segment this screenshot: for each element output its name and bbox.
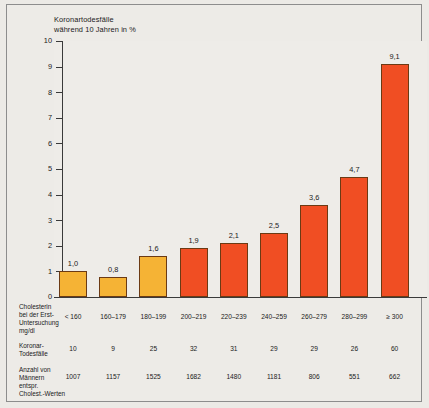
bar xyxy=(340,177,368,297)
chart-title: Koronartodesfälle während 10 Jahren in % xyxy=(54,15,136,34)
bar-value-label: 4,7 xyxy=(338,166,370,173)
bar xyxy=(260,233,288,297)
y-tick xyxy=(56,297,62,298)
table-cell: 260–279 xyxy=(294,314,334,321)
y-tick-label: 4 xyxy=(30,191,52,198)
y-tick xyxy=(56,118,62,119)
bar xyxy=(139,256,167,297)
table-cell: 1480 xyxy=(214,374,254,381)
bar-value-label: 1,9 xyxy=(178,237,210,244)
y-tick xyxy=(56,143,62,144)
bar-value-label: 2,5 xyxy=(258,222,290,229)
table-cell: 26 xyxy=(334,346,374,353)
table-row-label: Anzahl von Männern entspr. Cholest.-Wert… xyxy=(19,366,73,398)
table-cell: 280–299 xyxy=(334,314,374,321)
y-tick-label: 7 xyxy=(30,114,52,121)
y-tick-label: 5 xyxy=(30,165,52,172)
table-cell: 806 xyxy=(294,374,334,381)
table-cell: 1525 xyxy=(133,374,173,381)
table-cell: ≥ 300 xyxy=(375,314,415,321)
table-cell: 29 xyxy=(254,346,294,353)
table-cell: 1682 xyxy=(174,374,214,381)
table-cell: 32 xyxy=(174,346,214,353)
table-cell: 1157 xyxy=(93,374,133,381)
y-tick xyxy=(56,169,62,170)
table-cell: 220–239 xyxy=(214,314,254,321)
table-cell: 180–199 xyxy=(133,314,173,321)
data-table: Cholesterin bei der Erst- Untersuchung m… xyxy=(19,301,427,405)
table-cell: 1007 xyxy=(53,374,93,381)
bar xyxy=(59,271,87,297)
table-cell: 10 xyxy=(53,346,93,353)
table-cell: 29 xyxy=(294,346,334,353)
bar-value-label: 0,8 xyxy=(97,266,129,273)
table-cell: < 160 xyxy=(53,314,93,321)
y-tick-label: 8 xyxy=(30,89,52,96)
table-cell: 31 xyxy=(214,346,254,353)
bar-value-label: 1,0 xyxy=(57,260,89,267)
table-cell: 1181 xyxy=(254,374,294,381)
y-tick-label: 2 xyxy=(30,242,52,249)
bar-value-label: 9,1 xyxy=(379,53,411,60)
bar xyxy=(300,205,328,297)
bar xyxy=(220,243,248,297)
table-cell: 240–259 xyxy=(254,314,294,321)
y-tick xyxy=(56,246,62,247)
y-tick xyxy=(56,195,62,196)
bar xyxy=(180,248,208,297)
y-tick-label: 9 xyxy=(30,63,52,70)
table-cell: 200–219 xyxy=(174,314,214,321)
figure-frame: Koronartodesfälle während 10 Jahren in %… xyxy=(6,4,422,402)
figure-root: Koronartodesfälle während 10 Jahren in %… xyxy=(0,0,429,408)
table-cell: 60 xyxy=(375,346,415,353)
bar-value-label: 1,6 xyxy=(137,245,169,252)
y-tick xyxy=(56,67,62,68)
bar-value-label: 3,6 xyxy=(298,194,330,201)
table-cell: 551 xyxy=(334,374,374,381)
y-tick-label: 0 xyxy=(30,293,52,300)
table-cell: 25 xyxy=(133,346,173,353)
bar-value-label: 2,1 xyxy=(218,232,250,239)
bar xyxy=(99,277,127,297)
y-tick-label: 1 xyxy=(30,268,52,275)
table-cell: 662 xyxy=(375,374,415,381)
y-tick xyxy=(56,41,62,42)
table-cell: 160–179 xyxy=(93,314,133,321)
x-axis-line xyxy=(54,297,427,298)
y-tick xyxy=(56,220,62,221)
y-tick xyxy=(56,92,62,93)
y-tick-label: 3 xyxy=(30,217,52,224)
plot-area: 012345678910 1,00,81,61,92,12,53,64,79,1 xyxy=(54,41,427,298)
y-tick-label: 6 xyxy=(30,140,52,147)
table-cell: 9 xyxy=(93,346,133,353)
bar xyxy=(381,64,409,297)
y-tick-label: 10 xyxy=(30,37,52,44)
